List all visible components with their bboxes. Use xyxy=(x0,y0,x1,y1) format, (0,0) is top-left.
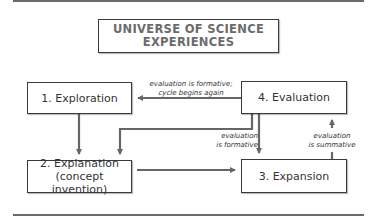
stage-exploration: 1. Exploration xyxy=(27,82,132,114)
label-summative: evaluation is summative xyxy=(305,132,359,149)
label-formative-cycle: evaluation is formative; cycle begins ag… xyxy=(142,80,240,97)
stage-expansion: 3. Expansion xyxy=(241,159,347,193)
stage-evaluation: 4. Evaluation xyxy=(241,81,347,114)
label-formative: evaluation is formative xyxy=(208,132,258,149)
stage-explanation: 2. Explanation (concept invention) xyxy=(27,160,132,193)
